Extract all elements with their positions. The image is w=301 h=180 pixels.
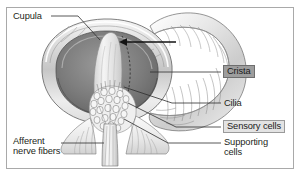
label-afferent-nerve-fibers: Afferent nerve fibers [13,136,60,157]
caption-partial [8,173,294,180]
label-crista: Crista [223,65,255,78]
label-cupula: Cupula [13,11,42,21]
figure-container: Cupula Crista Cilia Sensory cells Suppor… [0,0,301,180]
label-sensory-cells: Sensory cells [223,120,285,133]
label-cilia: Cilia [224,98,242,108]
label-supporting-cells: Supporting cells [224,137,268,158]
